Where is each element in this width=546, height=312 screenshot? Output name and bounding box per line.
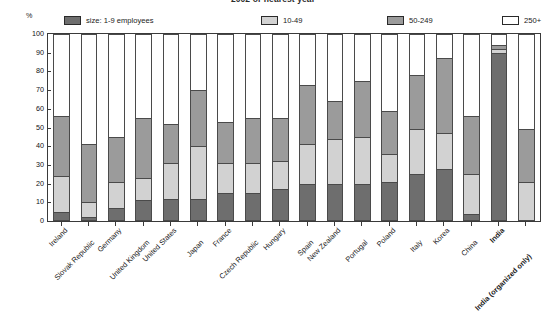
bar-segment [53, 34, 69, 116]
bar-group[interactable] [299, 34, 315, 221]
x-axis-category-label: Korea [431, 226, 451, 246]
bar-segment [163, 163, 179, 199]
bar-group[interactable] [245, 34, 261, 221]
stacked-bar[interactable] [163, 34, 179, 221]
legend-item-1[interactable]: 10-49 [261, 14, 302, 27]
legend-item-label: 50-249 [409, 17, 433, 25]
bar-segment [163, 199, 179, 221]
bar-segment [190, 90, 206, 146]
y-axis-tick-label: 80 [20, 66, 44, 75]
stacked-bar[interactable] [53, 34, 69, 221]
bar-segment [409, 75, 425, 129]
stacked-bar[interactable] [108, 34, 124, 221]
bar-segment [381, 182, 397, 221]
bar-segment [381, 154, 397, 182]
y-axis-tick-mark [48, 90, 51, 91]
stacked-bar[interactable] [381, 34, 397, 221]
bar-group[interactable] [463, 34, 479, 221]
x-axis-tick-mark [498, 222, 499, 226]
stacked-bar[interactable] [327, 34, 343, 221]
bar-segment [327, 101, 343, 138]
bar-segment [53, 212, 69, 221]
bar-segment [299, 184, 315, 221]
y-axis-tick-mark [48, 184, 51, 185]
x-axis-labels: IrelandSlovak RepublicGermanyUnited King… [0, 222, 546, 304]
stacked-bar[interactable] [299, 34, 315, 221]
bar-segment [245, 118, 261, 163]
bar-group[interactable] [409, 34, 425, 221]
legend-item-2[interactable]: 50-249 [387, 14, 433, 27]
x-axis-category-label: China [459, 238, 479, 258]
x-axis-tick-mark [170, 222, 171, 226]
bar-segment [354, 81, 370, 137]
bar-segment [108, 137, 124, 182]
legend-item-0[interactable]: size: 1-9 employees [64, 14, 154, 27]
stacked-bar[interactable] [354, 34, 370, 221]
x-axis-tick-mark [252, 222, 253, 226]
bar-group[interactable] [135, 34, 151, 221]
y-axis-unit-label: % [26, 11, 32, 20]
bar-group[interactable] [354, 34, 370, 221]
stacked-bar[interactable] [81, 34, 97, 221]
stacked-bar[interactable] [463, 34, 479, 221]
y-axis-tick-label: 100 [20, 29, 44, 38]
y-axis-tick-mark [48, 128, 51, 129]
stacked-bar[interactable] [217, 34, 233, 221]
legend-swatch-icon [387, 16, 404, 25]
bar-group[interactable] [108, 34, 124, 221]
y-axis-tick-label: 20 [20, 178, 44, 187]
bar-group[interactable] [163, 34, 179, 221]
stacked-bar[interactable] [190, 34, 206, 221]
legend-item-3[interactable]: 250+ [502, 14, 541, 27]
bar-segment [463, 214, 479, 221]
legend-swatch-icon [64, 16, 81, 25]
bar-segment [409, 34, 425, 75]
bar-segment [354, 184, 370, 221]
stacked-bar[interactable] [272, 34, 288, 221]
bar-segment [190, 199, 206, 221]
bar-segment [381, 111, 397, 154]
bar-segment [245, 34, 261, 118]
chart-legend: size: 1-9 employees10-4950-249250+ [47, 14, 542, 28]
x-axis-category-label: Italy [408, 238, 424, 254]
bar-group[interactable] [381, 34, 397, 221]
stacked-bar[interactable] [518, 34, 534, 221]
y-axis-tick-label: 70 [20, 85, 44, 94]
x-axis-category-label: Japan [185, 238, 206, 259]
x-axis-category-label: Czech Republic [217, 238, 260, 281]
x-axis-tick-mark [471, 222, 472, 226]
bar-segment [217, 163, 233, 193]
bar-group[interactable] [518, 34, 534, 221]
x-axis-category-label: France [210, 226, 233, 249]
x-axis-tick-mark [416, 222, 417, 226]
stacked-bar[interactable] [245, 34, 261, 221]
plot-area [47, 33, 541, 222]
legend-swatch-icon [502, 16, 519, 25]
bar-group[interactable] [491, 34, 507, 221]
stacked-bar[interactable] [135, 34, 151, 221]
bar-segment [327, 34, 343, 101]
bar-group[interactable] [217, 34, 233, 221]
bar-segment [381, 34, 397, 111]
x-axis-tick-mark [197, 222, 198, 226]
stacked-bar[interactable] [436, 34, 452, 221]
bar-group[interactable] [436, 34, 452, 221]
bar-segment [217, 193, 233, 221]
y-axis-tick-label: 10 [20, 197, 44, 206]
bar-group[interactable] [53, 34, 69, 221]
bar-segment [354, 137, 370, 184]
x-axis-tick-mark [143, 222, 144, 226]
bar-group[interactable] [81, 34, 97, 221]
stacked-bar[interactable] [491, 34, 507, 221]
bar-group[interactable] [190, 34, 206, 221]
bar-segment [436, 58, 452, 133]
y-axis-tick-label: 90 [20, 47, 44, 56]
bar-segment [163, 124, 179, 163]
x-axis-category-label: Portugal [344, 238, 370, 264]
bar-segment [81, 202, 97, 217]
bar-segment [463, 34, 479, 116]
bar-group[interactable] [327, 34, 343, 221]
bar-group[interactable] [272, 34, 288, 221]
stacked-bar[interactable] [409, 34, 425, 221]
